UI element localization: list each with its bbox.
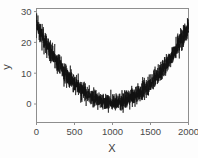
x-tick-label: 500: [67, 126, 83, 137]
y-axis-title: y: [0, 64, 12, 70]
y-tick-label: 20: [21, 37, 32, 48]
y-tick-label: 0: [26, 98, 31, 109]
x-tick-label: 0: [34, 126, 39, 137]
x-tick-label: 1000: [102, 126, 123, 137]
y-tick-label: 10: [21, 68, 32, 79]
chart-svg: 0102030 0500100015002000 X y: [0, 0, 198, 158]
x-tick-label: 1500: [140, 126, 161, 137]
x-tick-label: 2000: [178, 126, 198, 137]
x-axis-title: X: [108, 142, 116, 154]
figure-background: [0, 0, 198, 158]
chart-figure: 0102030 0500100015002000 X y: [0, 0, 198, 158]
y-tick-label: 30: [21, 6, 32, 17]
